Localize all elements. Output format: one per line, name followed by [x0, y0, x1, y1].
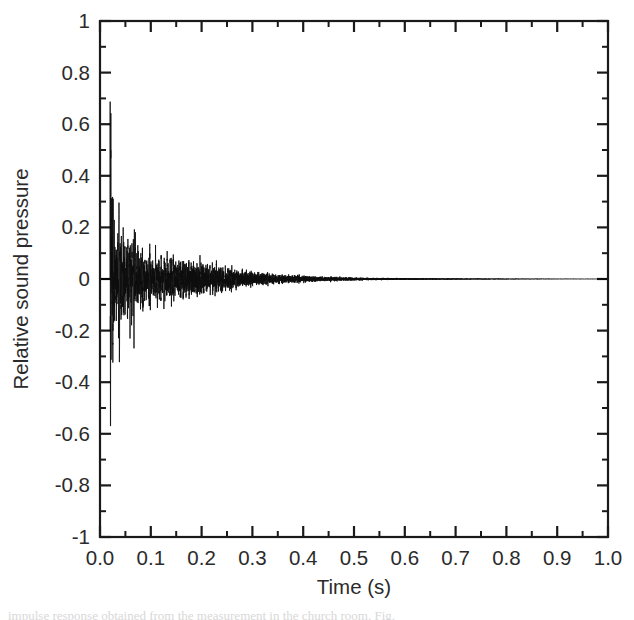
x-tick-label: 0.7 [441, 546, 470, 569]
y-tick-label: 1 [79, 9, 90, 32]
x-tick-label: 0.2 [187, 546, 216, 569]
x-axis-title: Time (s) [317, 575, 391, 598]
waveform-trace-layer [100, 102, 608, 426]
y-tick-label: 0.4 [62, 164, 91, 187]
y-tick-label: 0 [79, 267, 90, 290]
y-tick-label: -0.2 [55, 319, 90, 342]
x-tick-label: 0.3 [238, 546, 267, 569]
x-tick-label: 0.5 [340, 546, 369, 569]
y-axis-title: Relative sound pressure [9, 168, 32, 389]
figure-container: 0.00.10.20.30.40.50.60.70.80.91.0-1-0.8-… [0, 0, 634, 620]
x-tick-label: 1.0 [594, 546, 623, 569]
x-tick-label: 0.4 [289, 546, 318, 569]
y-tick-label: 0.8 [62, 61, 91, 84]
y-tick-label: -0.6 [55, 422, 90, 445]
figure-caption: impulse response obtained from the measu… [0, 609, 634, 620]
x-tick-label: 0.9 [543, 546, 572, 569]
x-tick-label: 0.8 [492, 546, 521, 569]
y-tick-label: -0.8 [55, 473, 90, 496]
x-tick-label: 0.1 [137, 546, 166, 569]
y-tick-label: -1 [72, 525, 90, 548]
y-tick-label: 0.6 [62, 112, 91, 135]
y-tick-label: 0.2 [62, 215, 91, 238]
waveform-trace [100, 102, 608, 426]
x-tick-label: 0.0 [86, 546, 115, 569]
x-tick-label: 0.6 [391, 546, 420, 569]
impulse-response-chart: 0.00.10.20.30.40.50.60.70.80.91.0-1-0.8-… [0, 0, 634, 620]
y-tick-label: -0.4 [55, 370, 90, 393]
